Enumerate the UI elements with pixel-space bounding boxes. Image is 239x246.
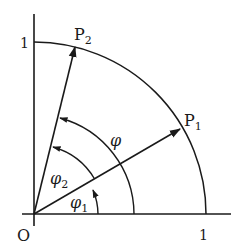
unit-circle-arc — [34, 42, 206, 214]
angle-phi-label: φ — [110, 131, 122, 150]
y-tick-label: 1 — [20, 35, 29, 51]
x-tick-label: 1 — [199, 227, 208, 243]
origin-label: O — [17, 226, 30, 245]
angle-phi1-label: φ1 — [70, 193, 88, 215]
vector-op2 — [34, 47, 75, 214]
angle-phi2-label: φ2 — [50, 169, 68, 191]
point-p1-label: P1 — [184, 111, 202, 133]
angle-arc-phi1 — [93, 190, 98, 214]
unit-circle-diagram: O 1 1 P2 P1 φ φ2 φ1 — [0, 0, 239, 246]
point-p2-label: P2 — [74, 25, 92, 47]
